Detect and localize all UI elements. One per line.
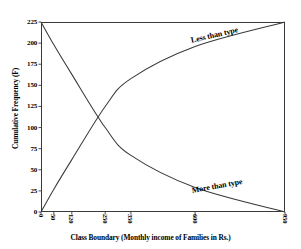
x-tick-label: 350 xyxy=(127,214,134,223)
x-tick-label: 0 xyxy=(37,214,44,217)
y-axis-ticks xyxy=(39,22,42,212)
y-tick-label: 125 xyxy=(27,103,37,110)
y-tick-label: 50 xyxy=(30,166,37,173)
x-tick-label: 600 xyxy=(191,214,198,223)
chart-canvas xyxy=(0,0,301,249)
y-axis-title: Cumulative Frequency (F) xyxy=(11,39,20,179)
x-tick-label: 50 xyxy=(50,214,57,220)
less-than-type-curve xyxy=(41,22,285,212)
y-tick-label: 175 xyxy=(27,61,37,68)
y-tick-label: 100 xyxy=(27,124,37,131)
y-tick-label: 150 xyxy=(27,82,37,89)
x-tick-label: 120 xyxy=(68,214,75,223)
x-axis-title: Class Boundary (Monthly income of Famili… xyxy=(0,233,301,242)
more-than-type-curve xyxy=(41,22,285,212)
x-tick-label: 250 xyxy=(101,214,108,223)
cumulative-frequency-chart: 0255075100125150175200225 05012025035060… xyxy=(0,0,301,249)
y-tick-label: 75 xyxy=(30,145,37,152)
x-axis-ticks xyxy=(41,212,285,215)
y-tick-label: 200 xyxy=(27,40,37,47)
y-tick-label: 225 xyxy=(27,19,37,26)
y-tick-label: 25 xyxy=(30,187,37,194)
x-tick-label: 950 xyxy=(281,214,288,223)
